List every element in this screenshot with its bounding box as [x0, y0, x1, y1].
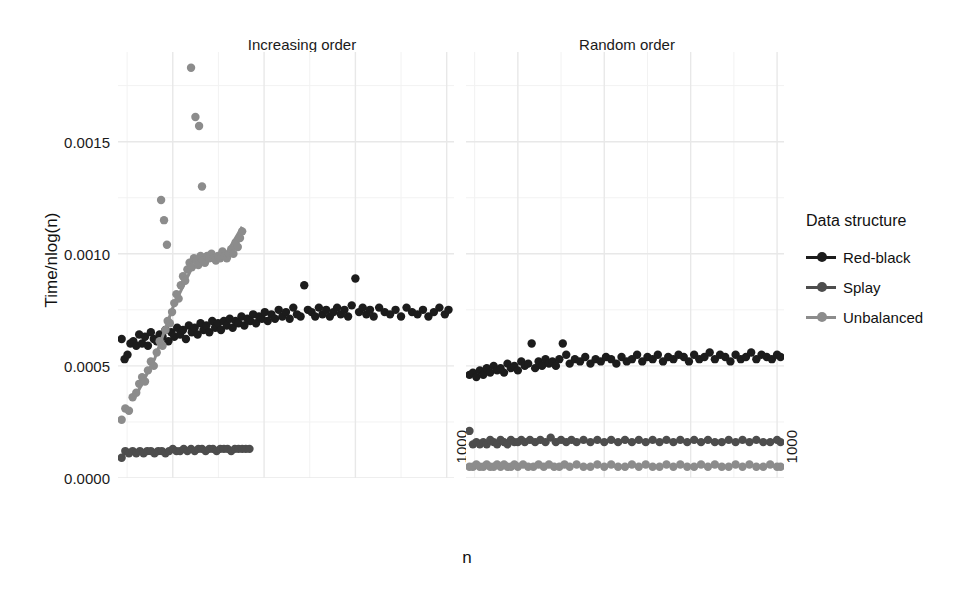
panel-canvas — [466, 52, 784, 478]
data-point — [166, 319, 174, 327]
series-splay — [118, 445, 254, 462]
data-point — [524, 359, 532, 367]
data-point — [555, 355, 563, 363]
data-point — [285, 315, 293, 323]
data-point — [118, 416, 126, 424]
data-point — [351, 274, 359, 282]
data-point — [125, 407, 133, 415]
data-point — [158, 342, 166, 350]
data-point — [726, 357, 734, 365]
data-point — [238, 227, 246, 235]
y-axis-tick-labels: 0.00150.00100.00050.0000 — [26, 0, 110, 590]
data-point — [466, 427, 474, 435]
data-point — [187, 63, 195, 71]
legend-key-icon — [806, 275, 836, 299]
legend-title: Data structure — [806, 212, 972, 230]
data-point — [612, 359, 620, 367]
legend: Data structure Red-blackSplayUnbalanced — [806, 212, 972, 332]
y-tick-label: 0.0000 — [26, 470, 110, 487]
data-point — [633, 350, 641, 358]
legend-key-icon — [806, 245, 836, 269]
legend-item-red-black[interactable]: Red-black — [806, 242, 972, 272]
data-point — [123, 350, 131, 358]
data-point — [182, 335, 190, 343]
data-point — [174, 294, 182, 302]
data-point — [163, 241, 171, 249]
plot-panel-random-order — [466, 52, 784, 478]
data-point — [150, 362, 158, 370]
series-red-black — [466, 339, 784, 381]
y-tick-label: 0.0015 — [26, 133, 110, 150]
data-point — [144, 342, 152, 350]
data-point — [514, 366, 522, 374]
data-point — [132, 389, 140, 397]
data-point — [191, 113, 199, 121]
data-point — [562, 350, 570, 358]
data-point — [500, 368, 508, 376]
minor-gridlines — [118, 52, 454, 478]
legend-items: Red-blackSplayUnbalanced — [806, 242, 972, 332]
facet-title-random-order: Random order — [470, 36, 784, 53]
legend-key-icon — [806, 305, 836, 329]
data-point — [369, 312, 377, 320]
data-point — [296, 312, 304, 320]
data-point — [153, 348, 161, 356]
x-axis-title: n — [150, 548, 784, 568]
data-point — [581, 353, 589, 361]
data-point — [705, 348, 713, 356]
legend-item-unbalanced[interactable]: Unbalanced — [806, 302, 972, 332]
data-point — [234, 243, 242, 251]
data-point — [348, 301, 356, 309]
data-point — [747, 348, 755, 356]
series-unbalanced — [118, 63, 246, 423]
data-point — [527, 339, 535, 347]
data-point — [157, 196, 165, 204]
legend-item-label: Splay — [843, 279, 881, 296]
data-point — [559, 339, 567, 347]
data-point — [271, 315, 279, 323]
y-tick-label: 0.0005 — [26, 357, 110, 374]
plot-panel-increasing-order — [118, 52, 454, 478]
data-point — [344, 312, 352, 320]
data-point — [118, 335, 126, 343]
panel-canvas — [118, 52, 454, 478]
legend-item-label: Red-black — [843, 249, 911, 266]
data-point — [141, 377, 149, 385]
data-point — [168, 308, 176, 316]
y-tick-label: 0.0010 — [26, 245, 110, 262]
legend-item-label: Unbalanced — [843, 309, 923, 326]
chart-figure: Increasing order Random order Time/nlog(… — [0, 0, 972, 590]
series-splay — [466, 427, 784, 449]
data-point — [419, 306, 427, 314]
data-point — [444, 306, 452, 314]
data-point — [654, 350, 662, 358]
legend-item-splay[interactable]: Splay — [806, 272, 972, 302]
data-point — [435, 303, 443, 311]
data-point — [198, 182, 206, 190]
data-point — [181, 276, 189, 284]
series-unbalanced — [466, 460, 784, 471]
major-gridlines — [466, 52, 784, 478]
facet-title-increasing-order: Increasing order — [150, 36, 454, 53]
data-point — [685, 357, 693, 365]
data-point — [311, 312, 319, 320]
data-point — [391, 306, 399, 314]
data-point — [397, 312, 405, 320]
minor-gridlines — [466, 52, 784, 478]
data-point — [300, 281, 308, 289]
data-point — [195, 122, 203, 130]
data-point — [160, 216, 168, 224]
x-tick-label: 1000 — [783, 430, 800, 490]
data-point — [245, 445, 253, 453]
major-gridlines — [118, 52, 454, 478]
